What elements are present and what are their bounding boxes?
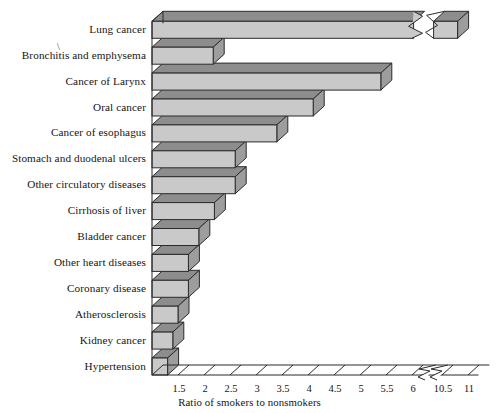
x-tick-label-3: 2.5 [224,383,237,394]
bar-1 [152,11,469,38]
chart-plot-area [0,0,499,413]
x-tick-label-9: 5.5 [380,383,393,394]
bar-7 [152,167,246,194]
bar-5 [152,115,288,142]
bar-4 [152,89,324,116]
bar-10 [152,244,199,271]
bar-8 [152,193,225,220]
bar-9 [152,219,210,246]
x-tick-label-11: 10.5 [434,383,452,394]
x-tick-label-12: 11 [464,383,474,394]
bar-13 [152,322,184,349]
x-axis-title: Ratio of smokers to nonsmokers [0,396,499,408]
x-tick-label-10: 6 [410,383,415,394]
bar-2 [152,37,224,64]
x-tick-label-4: 3 [254,383,259,394]
bar-3 [152,63,392,90]
bars-group [152,11,469,375]
bar-6 [152,141,246,168]
x-tick-label-2: 2 [202,383,207,394]
x-tick-label-5: 3.5 [276,383,289,394]
chart-container: Lung cancerBronchitis and emphysemaCance… [0,0,499,413]
x-tick-label-6: 4 [306,383,311,394]
x-tick-label-1: 1.5 [172,383,185,394]
bar-12 [152,296,189,323]
x-tick-label-8: 5 [358,383,363,394]
x-tick-label-7: 4.5 [328,383,341,394]
bar-11 [152,270,199,297]
